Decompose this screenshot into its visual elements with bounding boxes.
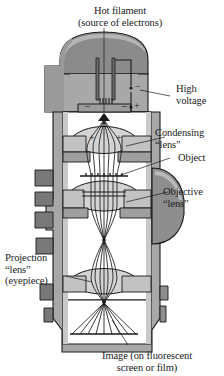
label-projection-lens-line3: (eyepiece) xyxy=(5,275,48,286)
label-projection-lens: Projection “lens” (eyepiece) xyxy=(5,252,48,287)
label-condensing-lens-line1: Condensing xyxy=(155,127,204,138)
label-projection-lens-line2: “lens” xyxy=(5,264,31,275)
label-objective-lens-line1: Objective xyxy=(163,186,203,197)
label-hot-filament: Hot filament (source of electrons) xyxy=(60,5,180,28)
label-hot-filament-line2: (source of electrons) xyxy=(78,17,162,28)
polarity-wehnelt-right: − xyxy=(121,101,127,113)
label-condensing-lens: Condensing “lens” xyxy=(155,127,204,150)
label-image: Image (on fluorescent screen or film) xyxy=(72,350,222,373)
label-objective-lens-line2: “lens” xyxy=(163,198,189,209)
polarity-anode-plus: + xyxy=(134,100,140,112)
label-hot-filament-line1: Hot filament xyxy=(94,5,146,16)
figure-canvas: Hot filament (source of electrons) High … xyxy=(0,0,224,376)
label-object: Object xyxy=(178,152,205,164)
polarity-hv-minus: − xyxy=(135,81,141,93)
polarity-wehnelt-left: − xyxy=(84,101,90,113)
polarity-condenser-left-plus: + xyxy=(89,132,95,144)
label-objective-lens: Objective “lens” xyxy=(163,186,203,209)
label-high-voltage-line1: High xyxy=(176,83,197,94)
label-high-voltage-line2: voltage xyxy=(176,95,206,106)
label-image-line1: Image (on fluorescent xyxy=(102,350,192,361)
label-high-voltage: High voltage xyxy=(176,83,206,106)
label-condensing-lens-line2: “lens” xyxy=(155,139,181,150)
label-image-line2: screen or film) xyxy=(117,362,177,373)
label-projection-lens-line1: Projection xyxy=(5,252,47,263)
housing-ribs xyxy=(35,170,53,322)
polarity-condenser-right-plus: + xyxy=(116,132,122,144)
